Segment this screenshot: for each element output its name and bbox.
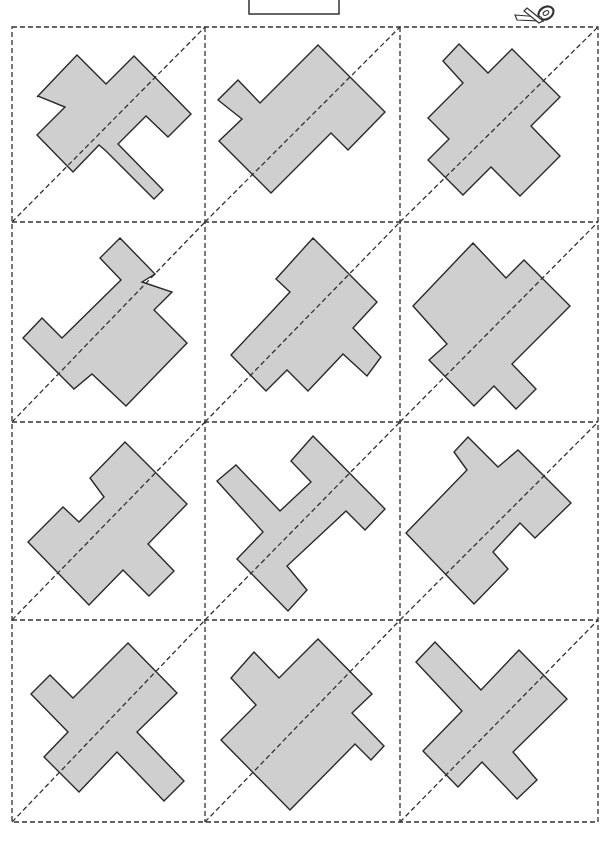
cell-r3-c1 bbox=[12, 422, 205, 620]
puzzle-shape bbox=[428, 44, 560, 196]
puzzle-shape bbox=[406, 437, 571, 604]
cell-r1-c3 bbox=[400, 27, 598, 222]
puzzle-shape bbox=[416, 642, 567, 799]
cell-r4-c1 bbox=[12, 620, 205, 822]
scissors-icon bbox=[515, 4, 556, 23]
cell-r2-c1 bbox=[12, 222, 205, 422]
cell-r4-c3 bbox=[400, 620, 598, 822]
puzzle-shape bbox=[37, 55, 191, 199]
cell-r2-c3 bbox=[400, 222, 598, 422]
fold-diagonal bbox=[12, 422, 205, 620]
puzzle-shape bbox=[221, 639, 384, 810]
cell-r1-c2 bbox=[205, 27, 400, 222]
puzzle-shape bbox=[231, 238, 381, 391]
cell-r2-c2 bbox=[205, 222, 400, 422]
title-box bbox=[249, 0, 339, 14]
puzzle-shape bbox=[28, 442, 187, 605]
fold-diagonal bbox=[400, 27, 598, 222]
puzzle-sheet: .cut { stroke: #333; stroke-width: 1.3; … bbox=[0, 0, 615, 844]
cell-r4-c2 bbox=[205, 620, 400, 822]
puzzle-shape bbox=[217, 436, 385, 611]
cell-r3-c3 bbox=[400, 422, 598, 620]
puzzle-shape bbox=[23, 238, 187, 406]
cell-r3-c2 bbox=[205, 422, 400, 620]
fold-diagonal bbox=[12, 620, 205, 822]
cell-r1-c1 bbox=[12, 27, 205, 222]
puzzle-shape bbox=[413, 243, 570, 409]
